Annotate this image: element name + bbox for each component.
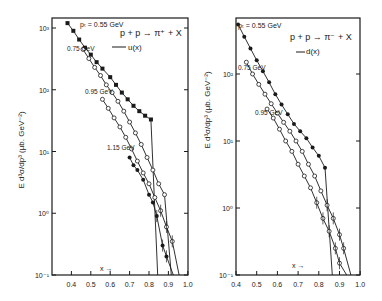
y-tick-label: 10⁰ bbox=[38, 210, 49, 217]
data-point bbox=[271, 116, 275, 120]
right-curve-label-055: pₜ = 0.55 GeV bbox=[238, 22, 282, 30]
x-tick-label: 0.6 bbox=[105, 281, 115, 288]
fit-curve bbox=[238, 24, 332, 275]
data-point bbox=[131, 104, 135, 108]
right-x-axis: 0.40.50.60.70.80.91.0 bbox=[231, 271, 365, 288]
data-point bbox=[108, 75, 112, 79]
x-tick-label: 0.4 bbox=[231, 281, 241, 288]
right-x-axis-label: x → bbox=[292, 262, 304, 269]
data-point bbox=[319, 189, 323, 193]
data-point bbox=[263, 92, 267, 96]
data-point bbox=[120, 91, 124, 95]
x-tick-label: 0.9 bbox=[164, 281, 174, 288]
data-point bbox=[87, 57, 91, 61]
right-y-axis: 10⁻¹10⁰10¹10² bbox=[219, 71, 360, 279]
data-point bbox=[304, 136, 308, 140]
x-tick-label: 0.6 bbox=[273, 281, 283, 288]
fit-curve bbox=[102, 99, 179, 275]
right-curve-label-075: 0.75 GeV bbox=[238, 64, 266, 71]
data-point bbox=[311, 145, 315, 149]
y-tick-label: 10⁻¹ bbox=[35, 272, 50, 279]
left-curve-label-055: pₜ = 0.55 GeV bbox=[80, 21, 124, 29]
data-point bbox=[296, 162, 300, 166]
right-series bbox=[236, 22, 351, 275]
data-point bbox=[135, 159, 139, 163]
data-point bbox=[257, 82, 261, 86]
data-point bbox=[273, 92, 277, 96]
data-point bbox=[93, 65, 97, 69]
x-tick-label: 0.8 bbox=[314, 281, 324, 288]
data-point bbox=[269, 102, 273, 106]
x-tick-label: 0.5 bbox=[252, 281, 262, 288]
data-point bbox=[284, 139, 288, 143]
data-point bbox=[317, 154, 321, 158]
data-point bbox=[313, 174, 317, 178]
data-point bbox=[66, 21, 70, 25]
data-point bbox=[122, 109, 126, 113]
data-point bbox=[290, 149, 294, 153]
x-tick-label: 0.7 bbox=[293, 281, 303, 288]
data-point bbox=[286, 112, 290, 116]
data-point bbox=[267, 80, 271, 84]
data-point bbox=[151, 200, 155, 204]
data-point bbox=[147, 182, 151, 186]
left-model-legend: u(x) bbox=[128, 43, 142, 52]
left-y-axis: 10⁻¹10⁰10¹10²10³ bbox=[35, 25, 188, 279]
data-point bbox=[255, 58, 259, 62]
data-point bbox=[248, 47, 252, 51]
right-panel: 10⁻¹10⁰10¹10² 0.40.50.60.70.80.91.0 E d³… bbox=[203, 18, 365, 288]
data-point bbox=[99, 74, 103, 78]
data-point bbox=[116, 99, 120, 103]
right-curve-label-095: 0.95 GeV bbox=[255, 109, 283, 116]
data-point bbox=[128, 120, 132, 124]
data-point bbox=[114, 83, 118, 87]
data-point bbox=[157, 182, 161, 186]
x-tick-label: 0.5 bbox=[86, 281, 96, 288]
y-tick-label: 10³ bbox=[39, 25, 50, 32]
data-point bbox=[100, 97, 104, 101]
data-point bbox=[112, 116, 116, 120]
left-reaction-title: p + p → π⁺ + X bbox=[120, 28, 182, 38]
data-point bbox=[141, 171, 145, 175]
x-tick-label: 0.4 bbox=[67, 281, 77, 288]
data-point bbox=[149, 117, 153, 121]
y-tick-label: 10⁻¹ bbox=[219, 272, 234, 279]
data-point bbox=[309, 186, 313, 190]
right-model-legend: d(x) bbox=[306, 47, 320, 56]
data-point bbox=[288, 129, 292, 133]
y-tick-label: 10⁰ bbox=[222, 205, 233, 212]
data-point bbox=[95, 60, 99, 64]
x-tick-label: 1.0 bbox=[183, 281, 193, 288]
x-tick-label: 0.9 bbox=[335, 281, 345, 288]
data-point bbox=[126, 97, 130, 101]
data-point bbox=[151, 168, 155, 172]
left-curve-label-115: 1.15 GeV bbox=[107, 144, 135, 151]
y-tick-label: 10² bbox=[223, 71, 234, 78]
right-y-axis-label: E d³σ/dp³ (μb. GeV⁻²) bbox=[203, 71, 212, 148]
data-point bbox=[300, 149, 304, 153]
data-point bbox=[147, 193, 151, 197]
data-point bbox=[153, 195, 157, 199]
left-x-axis: 0.40.50.60.70.80.91.0 bbox=[67, 271, 193, 288]
data-point bbox=[145, 155, 149, 159]
left-curve-label-095: 0.95 GeV bbox=[85, 88, 113, 95]
data-point bbox=[71, 29, 75, 33]
left-x-axis-label: x → bbox=[100, 265, 112, 272]
data-point bbox=[89, 53, 93, 57]
data-point bbox=[292, 122, 296, 126]
data-point bbox=[302, 174, 306, 178]
data-point bbox=[77, 38, 81, 42]
data-point bbox=[100, 67, 104, 71]
data-point bbox=[124, 135, 128, 139]
data-point bbox=[323, 166, 327, 170]
data-point bbox=[294, 139, 298, 143]
x-tick-label: 0.8 bbox=[144, 281, 154, 288]
y-tick-label: 10² bbox=[39, 87, 50, 94]
x-tick-label: 1.0 bbox=[355, 281, 365, 288]
data-point bbox=[137, 109, 141, 113]
data-point bbox=[141, 178, 145, 182]
left-curve-label-075: 0.75 GeV bbox=[67, 45, 95, 52]
x-tick-label: 0.7 bbox=[125, 281, 135, 288]
data-point bbox=[163, 193, 167, 197]
data-point bbox=[306, 162, 310, 166]
